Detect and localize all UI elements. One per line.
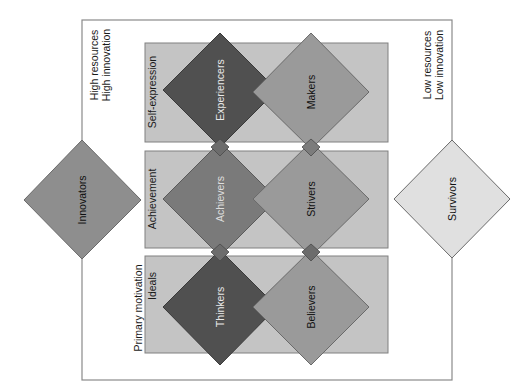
- thinkers-label: Thinkers: [214, 287, 226, 327]
- row-label-ideals: Ideals: [146, 272, 158, 300]
- believers-label: Believers: [305, 285, 317, 328]
- innovators-label: Innovators: [76, 175, 88, 224]
- high-resources-label: High resources: [88, 30, 100, 101]
- vals-segment-diagram: Experiencers Makers Achievers Strivers T…: [0, 0, 532, 392]
- row-label-achievement: Achievement: [146, 169, 158, 230]
- low-resources-label: Low resources: [421, 31, 433, 99]
- makers-label: Makers: [305, 75, 317, 109]
- primary-motivation-label: Primary motivation: [132, 264, 144, 351]
- high-innovation-label: High innovation: [100, 29, 112, 102]
- survivors-label: Survivors: [446, 177, 458, 221]
- experiencers-label: Experiencers: [214, 59, 226, 120]
- achievers-label: Achievers: [214, 176, 226, 222]
- row-label-self-expression: Self-expression: [146, 56, 158, 129]
- low-innovation-label: Low innovation: [433, 30, 445, 100]
- strivers-label: Strivers: [305, 181, 317, 217]
